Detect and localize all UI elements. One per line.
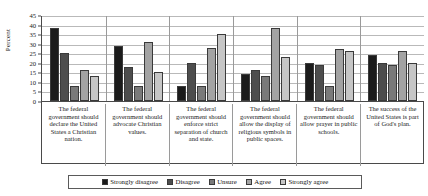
legend-swatch-icon	[246, 179, 252, 185]
y-axis-tick-labels: 454035302520151050	[19, 16, 39, 102]
bar	[388, 65, 397, 101]
legend-item[interactable]: Disagree	[167, 178, 200, 186]
legend-item[interactable]: Unsure	[209, 178, 237, 186]
bar	[80, 70, 89, 101]
legend-label: Agree	[254, 178, 271, 186]
legend-label: Disagree	[176, 178, 200, 186]
bar-group	[107, 16, 171, 101]
bar-group	[43, 16, 107, 101]
x-axis-category-label: The federal government should advocate C…	[106, 104, 170, 166]
bar	[261, 76, 270, 101]
y-axis-tick-label: 45	[29, 13, 36, 20]
bar-group	[361, 16, 424, 101]
legend-label: Strongly disagree	[110, 178, 158, 186]
x-axis-category-label: The federal government should declare th…	[42, 104, 106, 166]
plot-area	[41, 16, 424, 102]
y-axis-tick-label: 40	[29, 22, 36, 29]
y-axis-tick-label: 15	[29, 70, 36, 77]
bar	[241, 74, 250, 101]
legend-swatch-icon	[209, 179, 215, 185]
bar	[70, 86, 79, 101]
bar	[368, 55, 377, 101]
bar	[378, 63, 387, 101]
bar	[398, 51, 407, 101]
legend-swatch-icon	[102, 179, 108, 185]
bar	[177, 86, 186, 101]
legend-item[interactable]: Agree	[246, 178, 271, 186]
bar	[90, 76, 99, 101]
legend-swatch-icon	[280, 179, 286, 185]
y-axis-title: Percent	[4, 10, 12, 70]
y-axis-tick-label: 30	[29, 41, 36, 48]
bar	[345, 51, 354, 101]
bar	[154, 72, 163, 101]
bar	[251, 70, 260, 101]
legend-swatch-icon	[167, 179, 173, 185]
bar-group	[170, 16, 234, 101]
y-axis-tick-label: 35	[29, 32, 36, 39]
bar	[187, 63, 196, 101]
bar-chart: Percent 454035302520151050 The federal g…	[0, 0, 428, 196]
bar	[134, 86, 143, 101]
bar	[271, 28, 280, 101]
bar	[124, 67, 133, 101]
y-axis-tick-label: 20	[29, 60, 36, 67]
chart-legend: Strongly disagreeDisagreeUnsureAgreeStro…	[68, 175, 362, 189]
bar	[197, 86, 206, 101]
bar	[325, 86, 334, 101]
x-axis-category-label: The success of the United States is part…	[361, 104, 424, 166]
y-axis-tick-label: 10	[29, 80, 36, 87]
bar	[60, 53, 69, 101]
legend-item[interactable]: Strongly disagree	[102, 178, 158, 186]
bar	[144, 42, 153, 101]
x-axis-category-labels: The federal government should declare th…	[42, 104, 424, 166]
bar-group	[298, 16, 362, 101]
y-axis-tick-label: 25	[29, 51, 36, 58]
x-axis-category-label: The federal government should allow pray…	[297, 104, 361, 166]
x-axis-category-label: The federal government should allow the …	[233, 104, 297, 166]
bar	[335, 49, 344, 101]
bar	[217, 34, 226, 101]
y-axis-tick-label: 5	[33, 89, 36, 96]
bar-group	[234, 16, 298, 101]
bar	[50, 28, 59, 101]
bar	[281, 57, 290, 101]
bar-groups	[43, 16, 424, 101]
legend-label: Unsure	[217, 178, 237, 186]
legend-item[interactable]: Strongly agree	[280, 178, 328, 186]
bar	[408, 63, 417, 101]
bar	[305, 63, 314, 101]
y-axis-tick-label: 0	[33, 99, 36, 106]
bar	[207, 48, 216, 102]
bar	[114, 46, 123, 101]
x-axis-category-label: The federal government should enforce st…	[170, 104, 234, 166]
bar	[315, 65, 324, 101]
legend-label: Strongly agree	[288, 178, 328, 186]
